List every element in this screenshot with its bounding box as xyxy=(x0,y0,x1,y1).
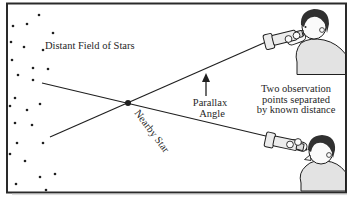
star-dot xyxy=(38,14,41,17)
star-dot xyxy=(32,67,35,70)
observer-bottom-eye xyxy=(306,149,308,151)
star-dot xyxy=(10,41,13,44)
parallax-angle-label-line1: Parallax xyxy=(193,97,228,108)
observer-bottom-hand xyxy=(287,141,294,148)
frame-shadow xyxy=(12,194,347,196)
star-dot xyxy=(14,97,17,100)
observer-top-hand2 xyxy=(293,32,300,39)
star-dot xyxy=(24,160,27,163)
star-dot xyxy=(26,109,29,112)
star-dot xyxy=(47,68,50,71)
star-dot xyxy=(12,25,15,28)
star-dot xyxy=(17,74,20,77)
observer-top-hand xyxy=(285,36,292,43)
observer-bottom-hand2 xyxy=(295,139,302,146)
star-dot xyxy=(14,122,17,125)
distant-field-label: Distant Field of Stars xyxy=(45,40,135,51)
star-dot xyxy=(32,79,35,82)
star-dot xyxy=(31,124,34,127)
star-dot xyxy=(42,142,45,145)
observer-top-eye xyxy=(305,26,307,28)
observation-note-line3: by known distance xyxy=(257,104,336,115)
observer-top-ear xyxy=(320,28,325,33)
star-dot xyxy=(26,23,29,26)
star-dot xyxy=(23,46,26,49)
star-dot xyxy=(42,49,45,52)
observer-bottom-ear xyxy=(327,153,332,158)
parallax-angle-label-line2: Angle xyxy=(199,108,225,119)
star-dot xyxy=(16,142,19,145)
parallax-diagram: Distant Field of Stars Nearby Star Paral… xyxy=(0,0,352,202)
star-dot xyxy=(9,153,12,156)
star-dot xyxy=(52,32,55,35)
diagram-canvas: Distant Field of Stars Nearby Star Paral… xyxy=(0,0,352,202)
observer-bottom-body xyxy=(300,161,345,191)
star-dot xyxy=(15,183,18,186)
star-dot xyxy=(39,176,42,179)
star-dot xyxy=(11,59,14,62)
star-dot xyxy=(45,189,48,192)
star-dot xyxy=(39,103,42,106)
star-dot xyxy=(9,105,12,108)
nearby-star-dot xyxy=(125,100,131,106)
star-dot xyxy=(54,173,57,176)
observation-note-line2: points separated xyxy=(262,94,331,105)
observation-note-line1: Two observation xyxy=(261,83,332,94)
